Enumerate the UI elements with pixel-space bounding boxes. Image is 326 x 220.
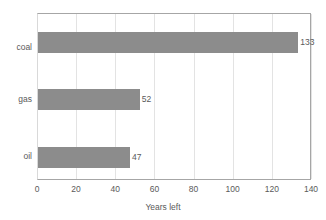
bar-oil bbox=[38, 147, 130, 168]
xtick-label-60: 60 bbox=[150, 185, 159, 194]
category-label-oil: oil bbox=[23, 152, 32, 161]
value-label-coal: 133 bbox=[300, 38, 314, 47]
bar-coal bbox=[38, 32, 298, 53]
bar-chart: coal gas oil 0 20 40 60 80 100 120 140 Y… bbox=[0, 0, 326, 220]
value-label-gas: 52 bbox=[142, 95, 151, 104]
xtick-label-20: 20 bbox=[71, 185, 80, 194]
x-axis-title: Years left bbox=[0, 203, 326, 212]
xtick-label-0: 0 bbox=[35, 185, 40, 194]
xtick-label-40: 40 bbox=[111, 185, 120, 194]
category-label-gas: gas bbox=[18, 95, 32, 104]
value-label-oil: 47 bbox=[132, 153, 141, 162]
category-label-coal: coal bbox=[16, 43, 32, 52]
xtick-label-100: 100 bbox=[226, 185, 240, 194]
xtick-label-120: 120 bbox=[265, 185, 279, 194]
bar-gas bbox=[38, 89, 140, 110]
plot-area bbox=[37, 13, 311, 180]
xtick-label-140: 140 bbox=[304, 185, 318, 194]
xtick-label-80: 80 bbox=[189, 185, 198, 194]
